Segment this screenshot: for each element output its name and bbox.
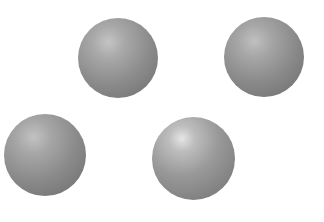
sphere-bottom-left (4, 114, 86, 196)
sphere-top-middle (78, 18, 158, 98)
sphere-bottom-middle (152, 117, 235, 200)
image-canvas (0, 0, 324, 222)
sphere-top-right (224, 17, 304, 97)
